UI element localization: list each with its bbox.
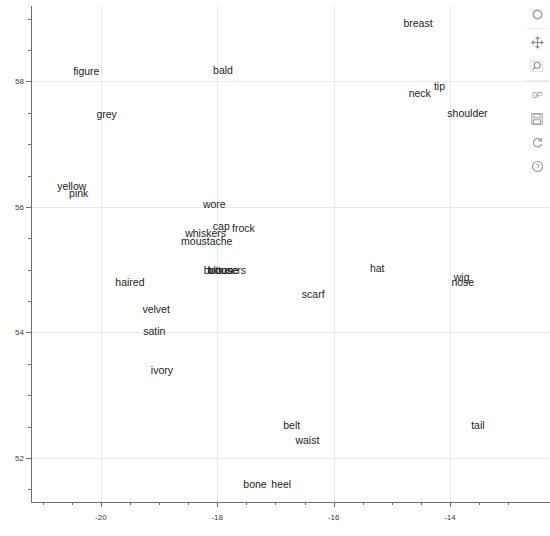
y-axis-minor-tick <box>28 176 31 177</box>
x-axis-major-tick <box>217 502 218 507</box>
data-point-label: pink <box>69 188 88 199</box>
data-point-label: satin <box>143 326 165 337</box>
data-point-label: heel <box>271 479 291 490</box>
x-axis-minor-tick <box>72 502 73 505</box>
y-axis-minor-tick <box>28 395 31 396</box>
y-axis-major-tick <box>26 332 31 333</box>
data-point-label: belt <box>283 420 300 431</box>
x-axis-major-tick <box>334 502 335 507</box>
refresh-icon[interactable] <box>526 132 548 153</box>
grid-line-horizontal <box>31 332 550 333</box>
y-axis-tick-label: 52 <box>7 454 24 463</box>
y-axis-minor-tick <box>28 144 31 145</box>
x-axis-minor-tick <box>305 502 306 505</box>
y-axis-minor-tick <box>28 427 31 428</box>
data-point-label: waist <box>295 435 319 446</box>
y-axis-minor-tick <box>28 270 31 271</box>
y-axis-major-tick <box>26 458 31 459</box>
y-axis-minor-tick <box>28 364 31 365</box>
x-axis-minor-tick <box>275 502 276 505</box>
y-axis-minor-tick <box>28 238 31 239</box>
y-axis-minor-tick <box>28 301 31 302</box>
data-point-label: figure <box>73 65 99 76</box>
figure-window: -20-18-16-1452545658 breastfigurebaldnec… <box>0 0 550 536</box>
toolbar-divider-1 <box>526 28 548 29</box>
y-axis-tick-label: 56 <box>7 202 24 211</box>
figure-toolbar[interactable]: 0P <box>524 4 550 177</box>
x-axis-minor-tick <box>421 502 422 505</box>
x-axis-minor-tick <box>479 502 480 505</box>
x-axis-minor-tick <box>43 502 44 505</box>
x-axis-tick-label: -20 <box>95 513 107 522</box>
data-point-label: shoulder <box>447 107 487 118</box>
y-axis-tick-label: 54 <box>7 328 24 337</box>
data-point-label: tail <box>471 420 484 431</box>
y-axis-tick-label: 58 <box>7 77 24 86</box>
data-point-label: nose <box>451 277 474 288</box>
data-point-label: bone <box>243 479 266 490</box>
y-axis-spine <box>31 6 32 502</box>
data-point-label: breast <box>403 18 432 29</box>
y-axis-minor-tick <box>28 19 31 20</box>
data-point-label: neck <box>409 87 431 98</box>
save-icon[interactable] <box>526 108 548 129</box>
x-axis-minor-tick <box>363 502 364 505</box>
data-point-label: moustache <box>181 236 232 247</box>
y-axis-major-tick <box>26 81 31 82</box>
y-axis-major-tick <box>26 207 31 208</box>
data-point-label: bald <box>213 65 233 76</box>
x-axis-minor-tick <box>508 502 509 505</box>
grid-line-horizontal <box>31 81 550 82</box>
x-axis-spine <box>31 502 550 503</box>
x-axis-tick-label: -16 <box>328 513 340 522</box>
x-axis-minor-tick <box>246 502 247 505</box>
x-axis-tick-label: -14 <box>444 513 456 522</box>
subplot-config-label: 0P <box>532 90 542 100</box>
grid-line-horizontal <box>31 207 550 208</box>
data-point-label: wore <box>203 199 226 210</box>
toolbar-divider-2 <box>526 80 548 81</box>
data-point-label: grey <box>96 109 116 120</box>
zoom-icon[interactable] <box>526 56 548 77</box>
x-axis-major-tick <box>450 502 451 507</box>
data-point-label: tip <box>434 80 445 91</box>
scatter-plot-canvas[interactable]: -20-18-16-1452545658 breastfigurebaldnec… <box>0 0 550 536</box>
y-axis-minor-tick <box>28 489 31 490</box>
data-point-label: trousers <box>208 264 246 275</box>
data-point-label: haired <box>115 277 144 288</box>
help-icon[interactable] <box>526 156 548 177</box>
x-axis-minor-tick <box>130 502 131 505</box>
y-axis-minor-tick <box>28 113 31 114</box>
x-axis-minor-tick <box>159 502 160 505</box>
data-point-label: frock <box>232 223 255 234</box>
grid-line-horizontal <box>31 458 550 459</box>
x-axis-major-tick <box>101 502 102 507</box>
data-point-label: ivory <box>151 365 173 376</box>
data-point-label: velvet <box>142 303 169 314</box>
data-point-label: scarf <box>302 288 325 299</box>
x-axis-tick-label: -18 <box>211 513 223 522</box>
x-axis-minor-tick <box>188 502 189 505</box>
home-icon[interactable] <box>526 4 548 25</box>
y-axis-minor-tick <box>28 50 31 51</box>
subplot-config-icon[interactable]: 0P <box>526 84 548 105</box>
data-point-label: hat <box>370 263 385 274</box>
x-axis-minor-tick <box>392 502 393 505</box>
move-icon[interactable] <box>526 32 548 53</box>
